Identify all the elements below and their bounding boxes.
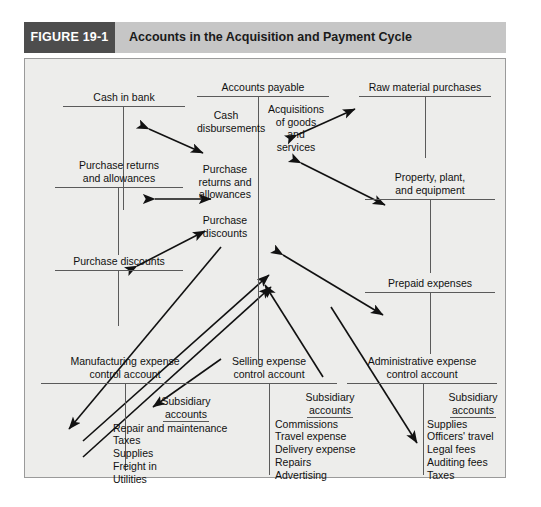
account-title-prepaid-expenses: Prepaid expenses [365, 277, 495, 290]
figure-title-bar: Accounts in the Acquisition and Payment … [115, 22, 506, 53]
subsidiary-administrative: Subsidiary accounts Supplies Officers' t… [427, 391, 533, 482]
t-account-purchase-returns-allowances: Purchase returns and allowances [55, 159, 183, 259]
figure-number-tab: FIGURE 19-1 [24, 22, 115, 53]
figure-header: FIGURE 19-1 Accounts in the Acquisition … [24, 22, 506, 53]
diagram-panel: Cash in bank Accounts payable Cash disbu… [24, 58, 506, 478]
subsidiary-item: Supplies [427, 418, 533, 431]
entry-ap-purchase-returns: Purchase returns and allowances [193, 163, 257, 201]
t-account-property-plant-equipment: Property, plant, and equipment [365, 171, 495, 281]
figure-container: FIGURE 19-1 Accounts in the Acquisition … [24, 22, 506, 478]
entry-acquisitions: Acquisitions of goods and services [263, 103, 329, 153]
account-title-purchase-discounts: Purchase discounts [55, 255, 183, 268]
figure-number-label: FIGURE 19-1 [24, 30, 115, 44]
subsidiary-item: Officers' travel [427, 430, 533, 443]
account-title-raw-material-purchases: Raw material purchases [359, 81, 491, 94]
subsidiary-item: Legal fees [427, 443, 533, 456]
t-account-raw-material-purchases: Raw material purchases [359, 81, 491, 177]
t-account-purchase-discounts: Purchase discounts [55, 255, 183, 331]
t-account-prepaid-expenses: Prepaid expenses [365, 277, 495, 361]
entry-ap-purchase-discounts: Purchase discounts [193, 214, 257, 239]
account-title-cash-in-bank: Cash in bank [63, 91, 185, 104]
account-title-manufacturing-expense: Manufacturing expense control account [41, 355, 209, 380]
subsidiary-item: Taxes [427, 469, 533, 482]
account-title-property-plant-equipment: Property, plant, and equipment [365, 171, 495, 196]
subsidiary-heading-line1: Subsidiary [427, 391, 519, 404]
entry-cash-disbursements: Cash disbursements [197, 109, 255, 134]
subsidiary-heading-line2: accounts [450, 404, 496, 418]
account-title-administrative-expense: Administrative expense control account [347, 355, 497, 380]
figure-title-label: Accounts in the Acquisition and Payment … [129, 30, 412, 44]
diagram-stage: Cash in bank Accounts payable Cash disbu… [25, 59, 505, 477]
subsidiary-item: Auditing fees [427, 456, 533, 469]
account-title-purchase-returns-allowances: Purchase returns and allowances [55, 159, 183, 184]
account-title-selling-expense: Selling expense control account [201, 355, 337, 380]
account-title-accounts-payable: Accounts payable [197, 81, 329, 94]
